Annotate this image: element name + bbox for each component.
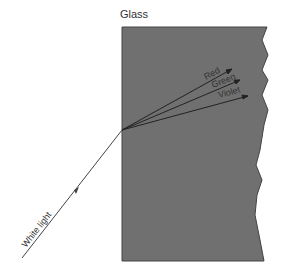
incident-ray [22, 130, 122, 258]
dispersion-diagram: Glass Red Green Violet White light [0, 0, 284, 271]
white-light-label: White light [20, 210, 54, 250]
glass-block [122, 27, 268, 261]
diagram-canvas: Red Green Violet White light [0, 0, 284, 271]
